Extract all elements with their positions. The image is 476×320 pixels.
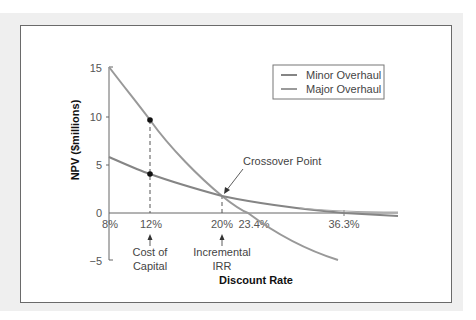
incremental-irr-label-2: IRR (213, 260, 232, 272)
x-tick-8: 8% (102, 218, 118, 230)
marker-major-12 (147, 117, 153, 123)
legend-label-minor: Minor Overhaul (306, 69, 381, 81)
crossover-arrowhead-icon (224, 187, 230, 194)
incremental-irr-arrow-icon (220, 234, 225, 240)
x-tick-20: 20% (211, 218, 233, 230)
x-tick-12: 12% (140, 218, 162, 230)
y-tick-15: 15 (90, 62, 102, 74)
y-tick-minus5: −5 (89, 255, 102, 267)
x-axis-title: Discount Rate (219, 274, 293, 286)
y-axis-title: NPV ($millions) (69, 99, 81, 180)
x-tick-36-3: 36.3% (328, 218, 359, 230)
y-tick-10: 10 (90, 111, 102, 123)
cost-of-capital-label-1: Cost of (133, 246, 169, 258)
incremental-irr-label-1: Incremental (193, 246, 250, 258)
crossover-label: Crossover Point (243, 155, 321, 167)
crossover-arrow (226, 169, 243, 191)
legend: Minor Overhaul Major Overhaul (273, 65, 384, 99)
cost-of-capital-arrow-icon (148, 234, 153, 240)
chart-plot: 15 10 5 0 −5 NPV ($millions) 8% 12% 20% … (0, 0, 476, 320)
y-tick-5: 5 (96, 159, 102, 171)
marker-minor-12 (147, 171, 153, 177)
legend-label-major: Major Overhaul (306, 83, 381, 95)
cost-of-capital-label-2: Capital (133, 260, 167, 272)
